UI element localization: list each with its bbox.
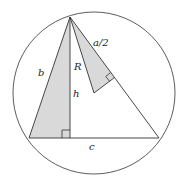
label-c: c xyxy=(89,141,95,152)
shaded-triangle-R-a-half xyxy=(70,17,115,93)
label-h: h xyxy=(73,88,79,99)
label-b: b xyxy=(38,67,44,78)
label-R: R xyxy=(73,61,82,72)
triangle-circumcircle-diagram: b R h a/2 c xyxy=(0,0,184,185)
label-a-half: a/2 xyxy=(93,37,109,48)
